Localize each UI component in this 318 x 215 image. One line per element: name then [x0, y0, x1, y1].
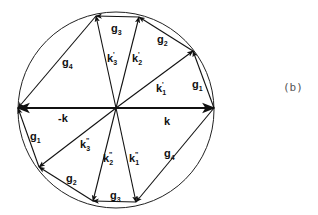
vector-k1p: [116, 51, 193, 108]
label-g3-upper: g3: [111, 22, 122, 36]
label--k: -k: [58, 112, 69, 124]
label-k1p: k1': [156, 81, 166, 96]
label-k2pp: k2": [103, 151, 113, 166]
figure-tag-label: (b): [283, 81, 303, 94]
label-g2-lower: g2: [66, 172, 77, 186]
label-g4-lower: g4: [164, 147, 175, 161]
vector-g3-lower: [93, 201, 136, 202]
reciprocal-lattice-diagram: k-kk1'k2'k3'k1"k2"k3"g1g2g3g4g1g2g3g4: [0, 0, 318, 215]
label-k: k: [164, 115, 171, 127]
label-g1-upper: g1: [192, 78, 203, 92]
label-g2-upper: g2: [157, 33, 168, 47]
label-g1-lower: g1: [30, 130, 41, 144]
label-k1pp: k1": [129, 151, 139, 166]
label-k2p: k2': [132, 51, 142, 66]
vector-g3-upper: [96, 16, 139, 17]
label-g4-upper: g4: [62, 56, 73, 70]
label-k3p: k3': [107, 51, 117, 66]
vector-g4-upper: [18, 16, 96, 108]
label-g3-lower: g3: [110, 189, 121, 203]
label-k3pp: k3": [80, 137, 90, 152]
